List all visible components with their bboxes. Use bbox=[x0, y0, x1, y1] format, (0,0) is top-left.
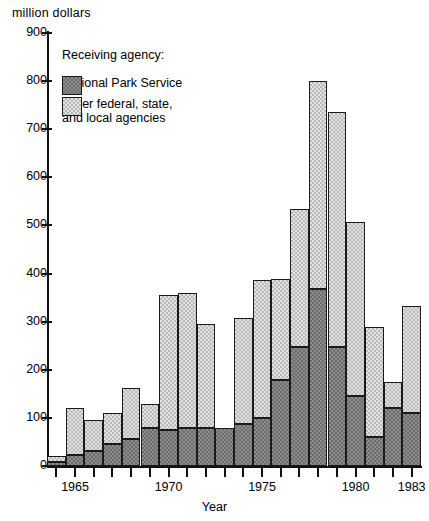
bar-segment-nps-1972 bbox=[197, 428, 216, 466]
x-tick-1980 bbox=[355, 468, 357, 477]
bar-segment-other-1976 bbox=[271, 279, 290, 380]
x-tick-1974 bbox=[242, 468, 244, 477]
bar-segment-nps-1983 bbox=[402, 413, 421, 466]
x-tick-1966 bbox=[93, 468, 95, 477]
y-tick-label-300: 300 bbox=[7, 314, 47, 328]
bar-segment-nps-1968 bbox=[122, 439, 141, 466]
bar-1977 bbox=[290, 33, 309, 466]
bar-segment-other-1965 bbox=[66, 408, 85, 455]
bar-segment-other-1972 bbox=[197, 324, 216, 429]
bar-segment-other-1981 bbox=[365, 327, 384, 437]
bar-segment-other-1978 bbox=[309, 81, 328, 289]
bar-segment-nps-1980 bbox=[346, 396, 365, 466]
y-tick-label-100: 100 bbox=[7, 410, 47, 424]
bar-segment-nps-1970 bbox=[159, 430, 178, 466]
legend-swatch-national-park-service bbox=[62, 76, 82, 95]
bar-segment-other-1968 bbox=[122, 388, 141, 439]
x-tick-1965 bbox=[74, 468, 76, 477]
bar-segment-nps-1967 bbox=[103, 444, 122, 466]
bar-segment-nps-1971 bbox=[178, 428, 197, 466]
bar-segment-nps-1965 bbox=[66, 455, 85, 466]
legend-item-national-park-service: National Park Service bbox=[62, 76, 182, 90]
bar-segment-nps-1977 bbox=[290, 347, 309, 466]
y-axis-title: million dollars bbox=[12, 6, 91, 20]
x-axis-line bbox=[47, 466, 422, 468]
bar-segment-other-1979 bbox=[328, 112, 347, 346]
bar-segment-nps-1982 bbox=[384, 408, 403, 466]
bar-segment-other-1966 bbox=[84, 420, 103, 450]
bar-1983 bbox=[402, 33, 421, 466]
bar-1972 bbox=[197, 33, 216, 466]
bar-1978 bbox=[309, 33, 328, 466]
bar-1975 bbox=[253, 33, 272, 466]
bar-1979 bbox=[328, 33, 347, 466]
bar-segment-nps-1966 bbox=[84, 451, 103, 466]
bar-segment-nps-1981 bbox=[365, 437, 384, 466]
bar-segment-other-1970 bbox=[159, 295, 178, 430]
x-tick-label-1983: 1983 bbox=[398, 480, 426, 494]
x-tick-label-1980: 1980 bbox=[342, 480, 370, 494]
y-tick-label-900: 900 bbox=[7, 25, 47, 39]
bar-segment-nps-1975 bbox=[253, 418, 272, 466]
x-tick-1976 bbox=[280, 468, 282, 477]
x-tick-label-1975: 1975 bbox=[248, 480, 276, 494]
bar-segment-other-1975 bbox=[253, 280, 272, 418]
bar-segment-nps-1978 bbox=[309, 289, 328, 466]
bar-segment-other-1983 bbox=[402, 306, 421, 413]
bar-1974 bbox=[234, 33, 253, 466]
bar-segment-nps-1964 bbox=[47, 462, 66, 466]
bar-segment-other-1977 bbox=[290, 209, 309, 347]
legend-item-other-agencies: Other federal, state, and local agencies bbox=[62, 97, 182, 125]
bar-segment-nps-1976 bbox=[271, 380, 290, 466]
x-tick-1968 bbox=[130, 468, 132, 477]
bar-1973 bbox=[215, 33, 234, 466]
bar-segment-other-1969 bbox=[141, 404, 160, 428]
bar-1982 bbox=[384, 33, 403, 466]
x-tick-1975 bbox=[261, 468, 263, 477]
y-tick-label-500: 500 bbox=[7, 217, 47, 231]
x-tick-1979 bbox=[336, 468, 338, 477]
x-tick-label-1970: 1970 bbox=[155, 480, 183, 494]
bar-1980 bbox=[346, 33, 365, 466]
y-tick-label-700: 700 bbox=[7, 121, 47, 135]
chart-figure: million dollars 010020030040050060070080… bbox=[0, 0, 429, 521]
chart-legend: Receiving agency: National Park Service … bbox=[62, 48, 182, 132]
x-tick-1972 bbox=[205, 468, 207, 477]
bar-segment-nps-1969 bbox=[141, 428, 160, 466]
legend-title: Receiving agency: bbox=[62, 48, 182, 62]
x-axis-title: Year bbox=[0, 500, 429, 514]
bar-segment-other-1980 bbox=[346, 222, 365, 396]
legend-swatch-other-agencies bbox=[62, 97, 82, 116]
x-tick-1970 bbox=[168, 468, 170, 477]
bar-1981 bbox=[365, 33, 384, 466]
y-tick-label-400: 400 bbox=[7, 266, 47, 280]
x-tick-label-1965: 1965 bbox=[61, 480, 89, 494]
bar-segment-nps-1974 bbox=[234, 424, 253, 466]
x-tick-1978 bbox=[317, 468, 319, 477]
y-tick-label-600: 600 bbox=[7, 169, 47, 183]
x-tick-1981 bbox=[373, 468, 375, 477]
bar-segment-nps-1973 bbox=[215, 428, 234, 466]
x-tick-1983 bbox=[411, 468, 413, 477]
x-tick-1964 bbox=[55, 468, 57, 477]
y-tick-label-0: 0 bbox=[7, 458, 47, 472]
bar-segment-nps-1979 bbox=[328, 347, 347, 466]
bar-1976 bbox=[271, 33, 290, 466]
bar-segment-other-1974 bbox=[234, 318, 253, 424]
x-tick-1973 bbox=[224, 468, 226, 477]
x-tick-1967 bbox=[111, 468, 113, 477]
x-tick-1971 bbox=[186, 468, 188, 477]
x-tick-1969 bbox=[149, 468, 151, 477]
bar-segment-other-1967 bbox=[103, 413, 122, 445]
x-tick-1982 bbox=[392, 468, 394, 477]
y-tick-label-800: 800 bbox=[7, 73, 47, 87]
y-tick-label-200: 200 bbox=[7, 362, 47, 376]
x-tick-1977 bbox=[298, 468, 300, 477]
bar-segment-other-1982 bbox=[384, 382, 403, 408]
bar-segment-other-1971 bbox=[178, 293, 197, 429]
